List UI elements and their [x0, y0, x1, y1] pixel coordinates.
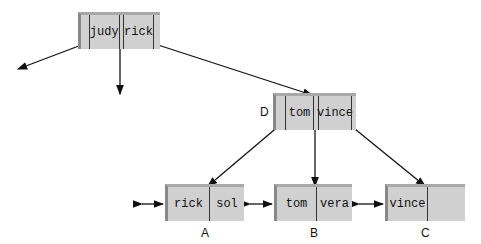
root-key: rick: [124, 15, 153, 49]
leaf-a-key: sol: [209, 187, 244, 221]
leaf-c-label: C: [421, 226, 430, 240]
node-d-pointer-slot: [351, 96, 356, 130]
root-key: judy: [90, 15, 119, 49]
node-d-label: D: [260, 105, 269, 119]
node-d-pointer-slot: [276, 96, 286, 130]
node-d: tom vince: [273, 93, 356, 130]
leaf-b: tom vera: [274, 184, 352, 221]
d-left-pointer: [208, 125, 280, 186]
leaf-b-key: tom: [277, 187, 316, 221]
root-left-pointer: [18, 44, 84, 69]
leaf-c-key: [427, 187, 465, 221]
d-right-pointer: [350, 125, 425, 186]
leaf-b-label: B: [310, 226, 318, 240]
root-right-pointer: [155, 44, 312, 95]
node-d-key: tom: [286, 96, 313, 130]
root-node: judy rick: [78, 12, 160, 49]
root-pointer-slot: [81, 15, 90, 49]
leaf-c-key: vince: [388, 187, 427, 221]
node-d-key: vince: [319, 96, 351, 130]
leaf-a: rick sol: [165, 184, 244, 221]
leaf-a-label: A: [201, 226, 209, 240]
leaf-b-key: vera: [316, 187, 352, 221]
leaf-a-key: rick: [168, 187, 209, 221]
root-pointer-slot: [153, 15, 160, 49]
leaf-c: vince: [385, 184, 465, 221]
